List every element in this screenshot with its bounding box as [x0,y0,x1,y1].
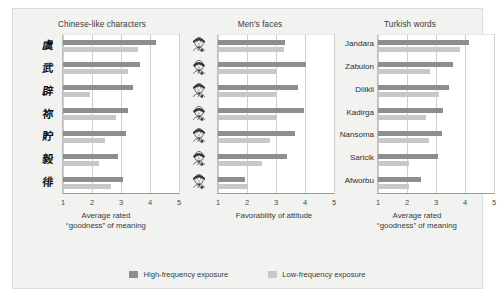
panel-title: Men's faces [184,20,336,29]
gridline [121,35,122,194]
x-axis-label: Favorability of attitude [194,211,354,221]
panel-title: Turkish words [337,20,483,29]
category-label: Afworbu [345,176,374,185]
bar-high-frequency [63,177,123,182]
bar-high-frequency [378,108,443,113]
bar-low-frequency [218,115,276,120]
category-glyph-icon: 毅 [42,150,55,166]
plot-area [62,34,180,194]
bar-low-frequency [378,47,460,52]
x-tick-label: 4 [148,198,152,207]
bar-high-frequency [378,40,469,45]
gridline [436,35,437,194]
bar-low-frequency [63,69,128,74]
x-tick-label: 4 [463,198,467,207]
gridline [494,35,495,194]
bar-high-frequency [218,62,306,67]
category-label: Nansoma [340,130,374,139]
bar-high-frequency [63,131,126,136]
panel-title: Chinese-like characters [12,20,192,29]
bar-low-frequency [378,92,439,97]
legend-swatch-high-icon [129,271,138,278]
bar-high-frequency [378,85,449,90]
bar-high-frequency [378,131,442,136]
bar-high-frequency [378,154,438,159]
bar-high-frequency [63,40,156,45]
bar-high-frequency [218,85,298,90]
gridline [276,35,277,194]
bar-low-frequency [63,161,99,166]
chart-panel-turkish-words: Turkish words JandaraZabulonDilikliKadir… [337,20,483,252]
x-axis-label: Average rated “goodness” of meaning [337,211,497,230]
bar-low-frequency [218,184,248,189]
category-glyph-icon: 辟 [42,82,55,98]
bar-low-frequency [378,161,409,166]
x-tick-label: 4 [303,198,307,207]
bar-high-frequency [63,62,140,67]
category-glyph-icon: 貯 [42,127,55,143]
gridline [179,35,180,194]
x-tick-label: 3 [119,198,123,207]
bar-high-frequency [378,62,453,67]
bar-high-frequency [218,131,295,136]
chart-legend: High-frequency exposure Low-frequency ex… [12,270,483,279]
category-labels [184,34,210,194]
bar-high-frequency [63,154,118,159]
x-tick-label: 2 [405,198,409,207]
legend-swatch-low-icon [268,271,277,278]
category-labels: 虞武辟祢貯毅徘 [12,34,56,194]
bar-high-frequency [218,177,245,182]
x-axis-ticks: 12345 [62,198,180,210]
bar-low-frequency [218,47,284,52]
category-label: Zabulon [345,62,374,71]
x-tick-label: 5 [492,198,496,207]
category-face-icon [190,172,208,190]
x-tick-label: 1 [61,198,65,207]
bar-low-frequency [63,138,105,143]
bar-low-frequency [378,184,409,189]
bar-high-frequency [218,40,285,45]
panels-container: Chinese-like characters 虞武辟祢貯毅徘 12345 Av… [12,8,483,289]
x-axis-label: Average rated “goodness” of meaning [26,211,186,230]
gridline [305,35,306,194]
bar-low-frequency [63,92,90,97]
category-glyph-icon: 武 [42,59,55,75]
x-tick-label: 2 [245,198,249,207]
bar-low-frequency [378,138,429,143]
legend-item-high: High-frequency exposure [129,270,228,279]
bar-low-frequency [218,138,270,143]
category-labels: JandaraZabulonDilikliKadirgaNansomaSaric… [337,34,374,194]
bar-low-frequency [218,92,276,97]
x-tick-label: 3 [434,198,438,207]
chart-panel-mens-faces: Men's faces 12345 Favorability of attitu… [184,20,336,252]
category-face-icon [190,104,208,122]
bar-low-frequency [63,184,111,189]
bar-low-frequency [63,115,116,120]
category-face-icon [190,126,208,144]
legend-label-high: High-frequency exposure [143,270,228,279]
bar-high-frequency [63,108,128,113]
category-label: Kadirga [346,108,374,117]
bar-low-frequency [378,69,430,74]
x-tick-label: 5 [177,198,181,207]
bar-low-frequency [218,161,262,166]
category-face-icon [190,149,208,167]
x-axis-ticks: 12345 [377,198,495,210]
category-glyph-icon: 虞 [42,36,55,52]
bar-high-frequency [218,108,304,113]
plot-area [217,34,335,194]
category-face-icon [190,58,208,76]
bar-low-frequency [218,69,277,74]
x-axis-line [378,193,494,194]
category-label: Jandara [345,39,374,48]
x-tick-label: 3 [274,198,278,207]
bar-high-frequency [378,177,421,182]
category-glyph-icon: 徘 [42,173,55,189]
x-tick-label: 2 [90,198,94,207]
bar-high-frequency [63,85,133,90]
x-axis-ticks: 12345 [217,198,335,210]
category-label: Saricik [350,153,374,162]
category-face-icon [190,81,208,99]
gridline [150,35,151,194]
